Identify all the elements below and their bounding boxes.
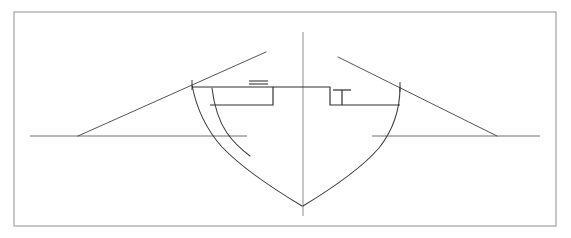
drawing-canvas <box>0 0 571 238</box>
background-fill <box>0 0 571 238</box>
ship-section-drawing <box>0 0 571 238</box>
